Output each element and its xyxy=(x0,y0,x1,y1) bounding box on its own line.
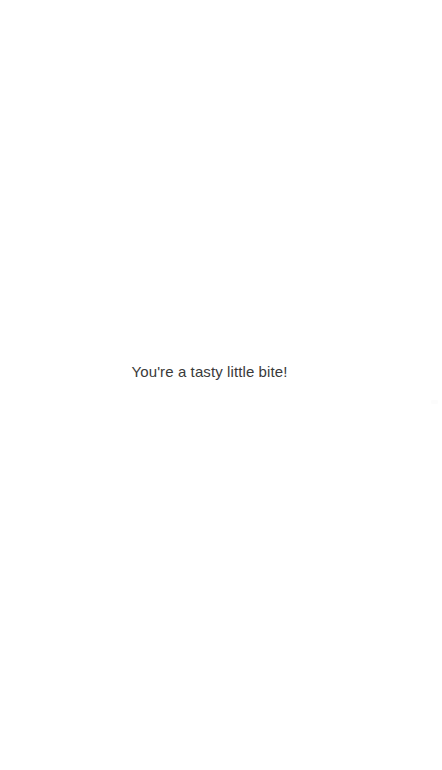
page-canvas: You're a tasty little bite! xyxy=(0,0,442,770)
scan-artifact-speck xyxy=(431,400,438,404)
caption-text: You're a tasty little bite! xyxy=(0,362,419,381)
